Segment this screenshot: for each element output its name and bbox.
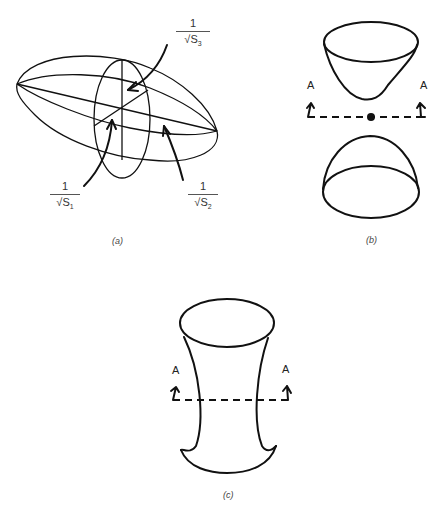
caption-a: (a) xyxy=(112,236,123,246)
section-label-a-right: A xyxy=(420,79,427,91)
ellipsoid-figure xyxy=(17,45,218,186)
section-label-a-left: A xyxy=(172,364,179,376)
label-inverse-sqrt-s3: 1 √S3 xyxy=(176,18,210,47)
label-denominator: √S1 xyxy=(50,195,80,210)
section-label-a-right: A xyxy=(282,363,289,375)
diagram-canvas xyxy=(0,0,445,513)
label-inverse-sqrt-s2: 1 √S2 xyxy=(188,181,218,210)
one-sheet-hyperboloid-figure xyxy=(171,299,291,473)
label-numerator: 1 xyxy=(188,181,218,195)
radical-symbol: √S xyxy=(56,196,69,208)
label-inverse-sqrt-s1: 1 √S1 xyxy=(50,181,80,210)
two-sheet-hyperboloid-figure xyxy=(307,22,425,218)
origin-point xyxy=(367,113,375,121)
label-denominator: √S2 xyxy=(188,195,218,210)
label-denominator: √S3 xyxy=(176,32,210,47)
radical-symbol: √S xyxy=(184,33,197,45)
radical-symbol: √S xyxy=(194,196,207,208)
subscript: 1 xyxy=(70,203,74,210)
caption-b: (b) xyxy=(366,235,377,245)
label-numerator: 1 xyxy=(50,181,80,195)
subscript: 3 xyxy=(198,40,202,47)
caption-c: (c) xyxy=(223,490,234,500)
label-numerator: 1 xyxy=(176,18,210,32)
section-label-a-left: A xyxy=(307,79,314,91)
subscript: 2 xyxy=(208,203,212,210)
